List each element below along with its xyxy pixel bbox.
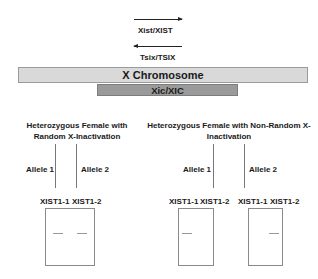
xist-label: Xist/XIST: [138, 26, 173, 35]
tsix-label: Tsix/TSIX: [140, 53, 175, 62]
allele1-label: Allele 1: [26, 165, 54, 174]
gel-band: [182, 233, 192, 234]
allele2-label: Allele 2: [249, 165, 277, 174]
allele2-line: [76, 144, 77, 188]
lane-label: XIST1-1: [40, 197, 69, 206]
panel-nonrandom-title-line1: Heterozygous Female with Non-Random X-: [140, 120, 318, 131]
gel-band: [77, 233, 87, 234]
allele1-line: [55, 144, 56, 188]
lane-label: XIST1-1: [238, 197, 267, 206]
xic-label: Xic/XIC: [151, 85, 184, 96]
gel-band: [53, 233, 63, 234]
xist-arrow-icon: [134, 19, 182, 20]
lane-label: XIST1-2: [200, 197, 229, 206]
panel-nonrandom-title-line2: Inactivation: [140, 131, 318, 142]
allele2-line: [244, 144, 245, 188]
allele1-label: Allele 1: [183, 165, 211, 174]
xic-bar: Xic/XIC: [97, 84, 238, 96]
gel-nonrandom-1: [178, 208, 214, 266]
x-chromosome-label: X Chromosome: [122, 69, 203, 81]
allele1-line: [213, 144, 214, 188]
panel-random-title-line1: Heterozygous Female with: [2, 120, 152, 131]
gel-band: [269, 233, 279, 234]
lane-label: XIST1-2: [72, 197, 101, 206]
tsix-arrow-icon: [134, 46, 182, 47]
panel-nonrandom-title: Heterozygous Female with Non-Random X- I…: [140, 120, 318, 142]
allele2-label: Allele 2: [81, 165, 109, 174]
x-chromosome-bar: X Chromosome: [18, 67, 308, 83]
lane-label: XIST1-1: [169, 197, 198, 206]
panel-random-title-line2: Random X-Inactivation: [2, 131, 152, 142]
gel-random: [45, 208, 95, 266]
panel-random-title: Heterozygous Female with Random X-Inacti…: [2, 120, 152, 142]
lane-label: XIST1-2: [270, 197, 299, 206]
gel-nonrandom-2: [248, 208, 283, 266]
